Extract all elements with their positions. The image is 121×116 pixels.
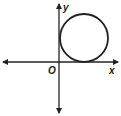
origin-label: O — [48, 65, 56, 76]
x-axis-label: x — [108, 65, 115, 76]
tangent-circle — [60, 14, 108, 62]
y-axis-label: y — [62, 2, 69, 13]
coordinate-plane: y x O — [0, 0, 121, 116]
